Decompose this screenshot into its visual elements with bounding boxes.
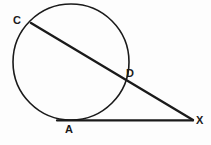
diagram-canvas — [0, 0, 211, 145]
vertex-label-x: X — [196, 115, 203, 126]
vertex-label-d: D — [126, 68, 134, 79]
vertex-label-a: A — [65, 124, 73, 135]
geometry-diagram: C D A X — [0, 0, 211, 145]
circle-shape — [13, 4, 129, 120]
secant-line-CX — [31, 23, 193, 120]
vertex-label-c: C — [13, 15, 21, 26]
